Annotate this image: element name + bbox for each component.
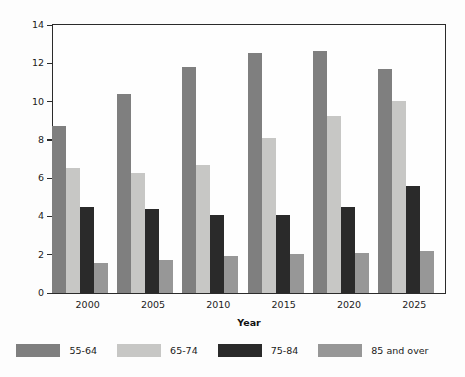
y-axis-tick-label: 10 [32,96,44,108]
bar-group: 2010 [182,25,238,293]
y-axis-tick-label: 6 [38,172,44,184]
x-axis-tick-label: 2010 [206,299,230,310]
y-axis-tick-label: 4 [38,210,44,222]
bar [276,215,290,293]
bar [290,254,304,293]
legend-label: 55-64 [69,345,97,356]
legend-item[interactable]: 75-84 [218,344,319,357]
bar [80,207,94,293]
bar [327,116,341,293]
bar [355,253,369,293]
bar [145,209,159,293]
y-axis-tick-label: 12 [32,57,44,69]
bar [66,168,80,293]
legend-label: 75-84 [271,345,299,356]
bar [341,207,355,293]
legend-color-swatch [117,344,161,357]
bar [378,69,392,293]
bar [182,67,196,293]
legend-label: 65-74 [170,345,198,356]
bar [196,165,210,293]
bar [131,173,145,293]
plot-area: 02468101214 200020052010201520202025 [52,24,446,294]
y-axis-tick-label: 2 [38,249,44,261]
bar [392,101,406,293]
bar [420,251,434,293]
bar [262,138,276,293]
bar-group: 2000 [52,25,108,293]
x-axis-tick-label: 2015 [272,299,296,310]
bar [94,263,108,293]
legend-label: 85 and over [371,345,428,356]
x-axis-tick-label: 2020 [337,299,361,310]
bar [159,260,173,293]
bar-group: 2025 [378,25,434,293]
legend-item[interactable]: 55-64 [16,344,117,357]
bar [313,51,327,293]
legend-item[interactable]: 85 and over [318,344,448,357]
bar [117,94,131,293]
bar [224,256,238,293]
bar [52,126,66,293]
x-axis-tick-label: 2025 [402,299,426,310]
bar [248,53,262,293]
bar-chart-figure: Percent of Population 02468101214 200020… [0,0,465,377]
x-axis-title: Year [52,317,446,328]
chart-legend: 55-6465-7475-8485 and over [0,344,465,357]
x-axis-tick-label: 2005 [141,299,165,310]
bar [210,215,224,293]
bar-group: 2005 [117,25,173,293]
y-axis-tick-label: 0 [38,287,44,299]
legend-color-swatch [318,344,362,357]
bar-group: 2015 [248,25,304,293]
legend-color-swatch [218,344,262,357]
legend-item[interactable]: 65-74 [117,344,218,357]
legend-color-swatch [16,344,60,357]
bar-series-container: 200020052010201520202025 [53,25,445,293]
x-axis-tick-label: 2000 [76,299,100,310]
y-axis-tick-label: 14 [32,19,44,31]
bar [406,186,420,293]
y-axis-tick-label: 8 [38,134,44,146]
bar-group: 2020 [313,25,369,293]
